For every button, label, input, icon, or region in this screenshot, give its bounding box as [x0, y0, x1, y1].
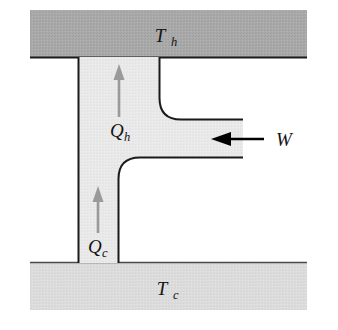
heat-in-label-main: Q — [88, 236, 102, 257]
device-upper-arm-wall — [160, 57, 244, 120]
diagram-canvas: T h T c Q h Q c W — [0, 0, 338, 330]
heat-in-label-sub: c — [102, 246, 108, 260]
hot-reservoir-label-sub: h — [171, 35, 177, 49]
work-in-label-main: W — [276, 129, 294, 150]
cold-reservoir-block — [30, 263, 307, 310]
hot-reservoir-label-main: T — [155, 25, 167, 46]
cold-reservoir-label-main: T — [157, 278, 169, 299]
cold-reservoir-label-sub: c — [173, 288, 179, 302]
device-body — [78, 57, 243, 263]
work-in-label: W — [276, 129, 294, 150]
hot-reservoir-block — [30, 10, 307, 57]
heat-out-label-main: Q — [110, 120, 124, 141]
device-lower-arm-wall — [119, 158, 244, 264]
cold-reservoir — [30, 263, 307, 311]
heat-pump-diagram: T h T c Q h Q c W — [0, 0, 338, 330]
hot-reservoir — [30, 10, 307, 58]
heat-out-label-sub: h — [124, 130, 130, 144]
